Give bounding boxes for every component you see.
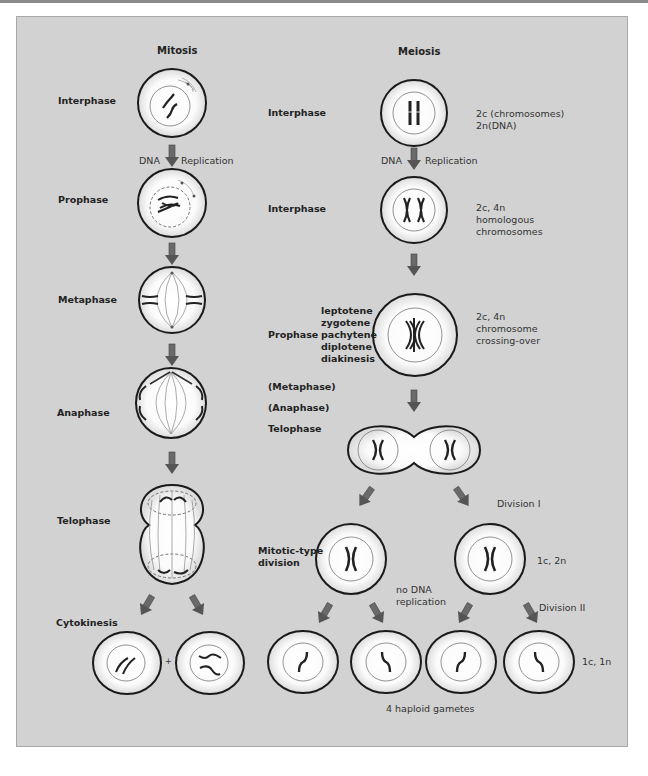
note-division-2: Division II — [539, 602, 585, 614]
mitosis-stage-interphase: Interphase — [58, 95, 116, 107]
mitosis-arrow-4 — [165, 452, 179, 474]
gamete-cell-1 — [268, 631, 338, 693]
mitosis-arrow-left — [135, 593, 158, 619]
note-interphase2-line1: 2c, 4n — [476, 202, 505, 214]
mitotic-type-line2: division — [258, 557, 300, 569]
meiosis-arrow-1 — [407, 148, 421, 170]
note-no-dna-line1: no DNA — [396, 584, 432, 596]
mitosis-anaphase-cell — [136, 368, 206, 438]
meiosis-telophase-cell — [348, 426, 480, 474]
mitosis-stage-cytokinesis: Cytokinesis — [56, 617, 118, 629]
meiosis-dna-label: DNA — [381, 155, 402, 167]
mitosis-stage-metaphase: Metaphase — [58, 294, 117, 306]
mitosis-arrow-3 — [165, 344, 179, 366]
mitosis-stage-anaphase: Anaphase — [57, 407, 110, 419]
meiosis-interphase-cell-1 — [381, 80, 447, 146]
note-interphase2-line3: chromosomes — [476, 226, 543, 238]
mitosis-stage-prophase: Prophase — [58, 194, 108, 206]
meiosis-arrow-div2-1 — [313, 601, 336, 627]
meiosis-arrow-div2-3 — [453, 601, 476, 627]
meiosis-title: Meiosis — [398, 46, 440, 58]
note-prophase-line3: crossing-over — [476, 335, 540, 347]
mitosis-dna-label: DNA — [139, 155, 160, 167]
substage-diakinesis: diakinesis — [321, 353, 375, 365]
meiosis-stage-anaphase: (Anaphase) — [268, 402, 329, 414]
substage-pachytene: pachytene — [321, 329, 377, 341]
meiosis-arrow-2 — [407, 254, 421, 276]
meiosis-arrow-div1-right — [450, 484, 474, 510]
substage-diplotene: diplotene — [321, 341, 372, 353]
meiosis-stage-interphase-1: Interphase — [268, 107, 326, 119]
note-interphase1-line2: 2n(DNA) — [476, 120, 516, 132]
meiosis-interphase-cell-2 — [381, 177, 447, 243]
meiosis-division1-cell-1 — [316, 524, 386, 594]
note-gametes-ploidy: 1c, 1n — [582, 656, 611, 668]
gamete-cell-2 — [351, 631, 421, 693]
mitosis-title: Mitosis — [157, 45, 197, 57]
mitotic-type-line1: Mitotic-type — [258, 545, 323, 557]
note-interphase2-line2: homologous — [476, 214, 534, 226]
note-no-dna-line2: replication — [396, 596, 446, 608]
mitosis-daughter-cell-1 — [93, 632, 161, 694]
plus-sign: + — [165, 656, 172, 668]
substage-zygotene: zygotene — [321, 317, 370, 329]
meiosis-stage-prophase: Prophase — [268, 329, 318, 341]
mitosis-arrow-1 — [165, 145, 179, 167]
meiosis-division1-cell-2 — [455, 524, 525, 594]
meiosis-arrow-div2-2 — [366, 601, 389, 627]
mitosis-prophase-cell — [138, 169, 206, 237]
mitosis-daughter-cell-2 — [176, 632, 244, 694]
meiosis-prophase-cell — [373, 294, 457, 376]
substage-leptotene: leptotene — [321, 305, 373, 317]
gamete-cell-3 — [426, 631, 496, 693]
gamete-cell-4 — [504, 631, 574, 693]
meiosis-stage-telophase: Telophase — [268, 423, 322, 435]
meiosis-stage-interphase-2: Interphase — [268, 203, 326, 215]
note-division-1: Division I — [497, 498, 540, 510]
mitosis-arrow-2 — [165, 243, 179, 265]
mitosis-arrow-right — [186, 593, 209, 619]
meiosis-arrow-div1-left — [354, 484, 378, 510]
note-haploid-gametes: 4 haploid gametes — [386, 703, 475, 715]
meiosis-arrow-3 — [407, 390, 421, 412]
note-interphase1-line1: 2c (chromosomes) — [476, 108, 564, 120]
meiosis-stage-metaphase: (Metaphase) — [268, 381, 336, 393]
mitosis-telophase-cell — [140, 485, 204, 584]
note-prophase-line1: 2c, 4n — [476, 311, 505, 323]
mitosis-replication-label: Replication — [181, 155, 234, 167]
mitosis-interphase-cell — [138, 69, 206, 137]
note-prophase-line2: chromosome — [476, 323, 538, 335]
note-division1-ploidy: 1c, 2n — [537, 555, 566, 567]
meiosis-replication-label: Replication — [425, 155, 478, 167]
mitosis-stage-telophase: Telophase — [57, 515, 111, 527]
mitosis-metaphase-cell — [139, 267, 205, 333]
